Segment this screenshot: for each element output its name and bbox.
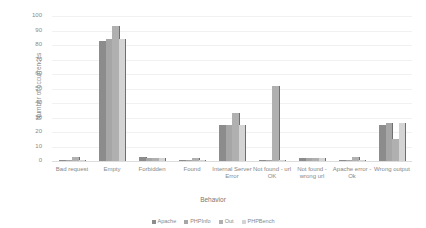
y-tick-label: 40 [22,99,42,105]
x-axis-title: Behavior [0,196,426,203]
x-tick-label: Wrong output [372,166,412,173]
y-tick-label: 0 [22,157,42,163]
legend-item: PHPInfo [184,218,210,224]
bar [239,125,247,161]
bar [272,86,280,161]
x-tick-label: Empty [92,166,132,173]
y-tick-label: 90 [22,27,42,33]
x-tick-label: Found [172,166,212,173]
bar [79,160,87,161]
gridline [52,31,412,32]
legend-item: PHPBench [242,218,275,224]
y-tick-label: 30 [22,114,42,120]
y-tick-label: 100 [22,12,42,18]
y-tick-label: 50 [22,85,42,91]
bar [159,158,167,161]
x-tick-label: Forbidden [132,166,172,173]
legend-swatch-icon [242,220,246,224]
x-tick-label: Not found - wrong url [292,166,332,180]
legend: ApachePHPInfoOutPHPBench [0,218,426,224]
legend-item: Apache [152,218,177,224]
y-tick-label: 80 [22,41,42,47]
bar [119,39,127,161]
legend-swatch-icon [152,220,156,224]
x-tick-label: Internal Server Error [212,166,252,180]
y-tick-label: 20 [22,128,42,134]
legend-swatch-icon [219,220,223,224]
y-tick-label: 70 [22,56,42,62]
y-tick-label: 60 [22,70,42,76]
x-tick-label: Apache error - Ok [332,166,372,180]
x-tick-label: Not found - url OK [252,166,292,180]
bar [399,123,407,161]
legend-swatch-icon [184,220,188,224]
legend-item: Out [219,218,234,224]
y-tick-label: 10 [22,143,42,149]
x-axis-line [52,161,412,162]
x-tick-label: Bad request [52,166,92,173]
bar [319,158,327,161]
bar [199,160,207,161]
bar [279,160,287,161]
bar [359,160,367,161]
gridline [52,16,412,17]
